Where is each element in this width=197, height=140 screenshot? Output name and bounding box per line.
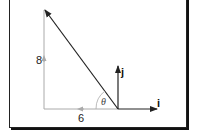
angle-label: θ: [101, 96, 106, 107]
j-label: j: [120, 66, 124, 78]
resultant-vector: [45, 10, 118, 109]
i-label: i: [157, 97, 160, 109]
vector-diagram: 8 6 θ i j: [0, 0, 197, 140]
vertical-label: 8: [36, 54, 42, 66]
horizontal-label: 6: [78, 112, 84, 124]
